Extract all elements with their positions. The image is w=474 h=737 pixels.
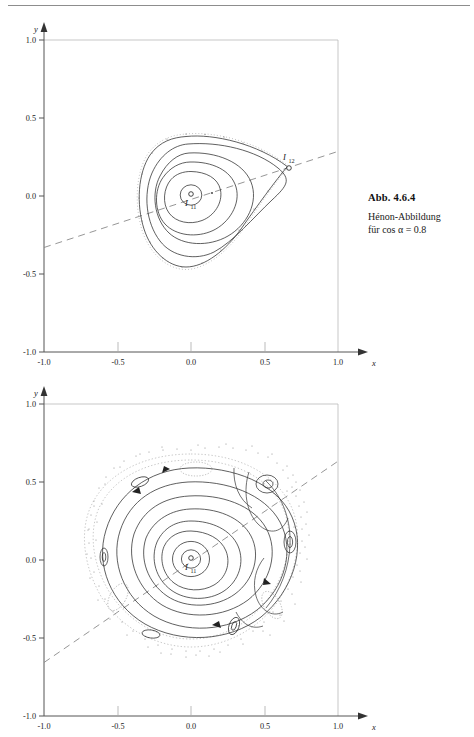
y-tick-label: -0.5	[23, 270, 36, 279]
x-axis-label: x	[371, 358, 376, 368]
x-tick-label: 0.0	[186, 358, 196, 367]
x-tick-label: -0.5	[112, 358, 125, 367]
fixed-point-I11-marker	[189, 192, 194, 197]
x-tick-label: -0.5	[112, 722, 125, 731]
figure-abb-4-6-5: 1.0 0.5 0.0 -0.5 -1.0 -1.0 -0.5 0.0 0.5 …	[0, 372, 474, 737]
fixed-point-label-I11: I 11	[184, 562, 196, 574]
orbit-direction-arrows	[132, 466, 271, 628]
x-axis-tick-labels: -1.0 -0.5 0.0 0.5 1.0	[38, 358, 344, 367]
island	[130, 475, 150, 490]
island	[256, 475, 278, 493]
separatrix-halo	[137, 134, 289, 270]
y-tick-label: 0.0	[26, 192, 36, 201]
x-axis-ticks	[118, 342, 265, 352]
y-tick-label: 1.0	[26, 400, 36, 409]
orbit-tick-dot	[211, 192, 213, 194]
invariant-curves	[139, 136, 287, 267]
x-axis-ticks	[118, 706, 265, 716]
dashed-symmetry-line	[44, 461, 338, 662]
island	[100, 548, 108, 566]
fixed-point-label-base: I	[184, 198, 189, 208]
invariant-curve	[117, 482, 287, 628]
y-axis-arrow	[41, 386, 48, 396]
x-axis-label: x	[371, 722, 376, 732]
invariant-curve	[147, 144, 286, 257]
x-axis-arrow	[358, 349, 368, 356]
fixed-point-label-sub: 12	[289, 157, 295, 164]
henon-plot-cos-0-4: 1.0 0.5 0.0 -0.5 -1.0 -1.0 -0.5 0.0 0.5 …	[0, 372, 474, 737]
fixed-point-label-sub: 11	[191, 567, 197, 574]
henon-plot-cos-0-8: 1.0 0.5 0.0 -0.5 -1.0 -1.0 -0.5 0.0 0.5 …	[0, 10, 474, 370]
x-tick-label: 1.0	[333, 722, 343, 731]
y-axis-ticks	[39, 40, 44, 352]
invariant-curve	[162, 531, 228, 590]
figure-abb-4-6-4: 1.0 0.5 0.0 -0.5 -1.0 -1.0 -0.5 0.0 0.5 …	[0, 10, 474, 370]
y-axis-label: y	[33, 24, 38, 34]
x-axis-tick-labels: -1.0 -0.5 0.0 0.5 1.0	[38, 722, 344, 731]
y-tick-label: 0.5	[26, 114, 36, 123]
invariant-curve	[164, 171, 220, 222]
y-tick-label: 0.0	[26, 556, 36, 565]
island	[180, 462, 212, 476]
fixed-point-I12-marker	[287, 166, 292, 171]
fixed-point-label-I12: I 12	[282, 152, 295, 164]
x-axis-arrow	[358, 713, 368, 720]
y-axis-tick-labels: 1.0 0.5 0.0 -0.5 -1.0	[23, 36, 36, 357]
y-axis-ticks	[39, 404, 44, 716]
fixed-point-label-sub: 11	[191, 203, 197, 210]
separatrix-curve	[139, 136, 287, 267]
fixed-point-label-I11: I 11	[184, 198, 196, 210]
x-tick-label: 0.5	[260, 358, 270, 367]
chaotic-layer	[87, 444, 310, 658]
x-tick-label: 0.0	[186, 722, 196, 731]
y-tick-label: -1.0	[23, 348, 36, 357]
invariant-curve	[156, 162, 237, 235]
y-axis-label: y	[33, 388, 38, 398]
x-tick-label: -1.0	[38, 358, 51, 367]
caption-line-2: für cos α = 0.8	[368, 223, 474, 236]
fixed-point-label-base: I	[282, 152, 287, 162]
caption-title: Abb. 4.6.4	[368, 192, 474, 203]
y-axis-tick-labels: 1.0 0.5 0.0 -0.5 -1.0	[23, 400, 36, 721]
caption-line-1: Hénon-Abbildung	[368, 210, 474, 223]
figure-caption-4-6-4: Abb. 4.6.4 Hénon-Abbildung für cos α = 0…	[368, 192, 474, 236]
x-tick-label: 1.0	[333, 358, 343, 367]
axis-lines	[44, 396, 358, 716]
y-tick-label: -1.0	[23, 712, 36, 721]
y-tick-label: 0.5	[26, 478, 36, 487]
page-top-rule	[8, 5, 470, 6]
y-axis-arrow	[41, 22, 48, 32]
invariant-curve	[144, 509, 256, 605]
fixed-point-I11-marker	[189, 556, 194, 561]
y-tick-label: -0.5	[23, 634, 36, 643]
x-tick-label: -1.0	[38, 722, 51, 731]
island	[104, 580, 133, 614]
dashed-symmetry-line	[44, 151, 338, 247]
x-tick-label: 0.5	[260, 722, 270, 731]
y-tick-label: 1.0	[26, 36, 36, 45]
